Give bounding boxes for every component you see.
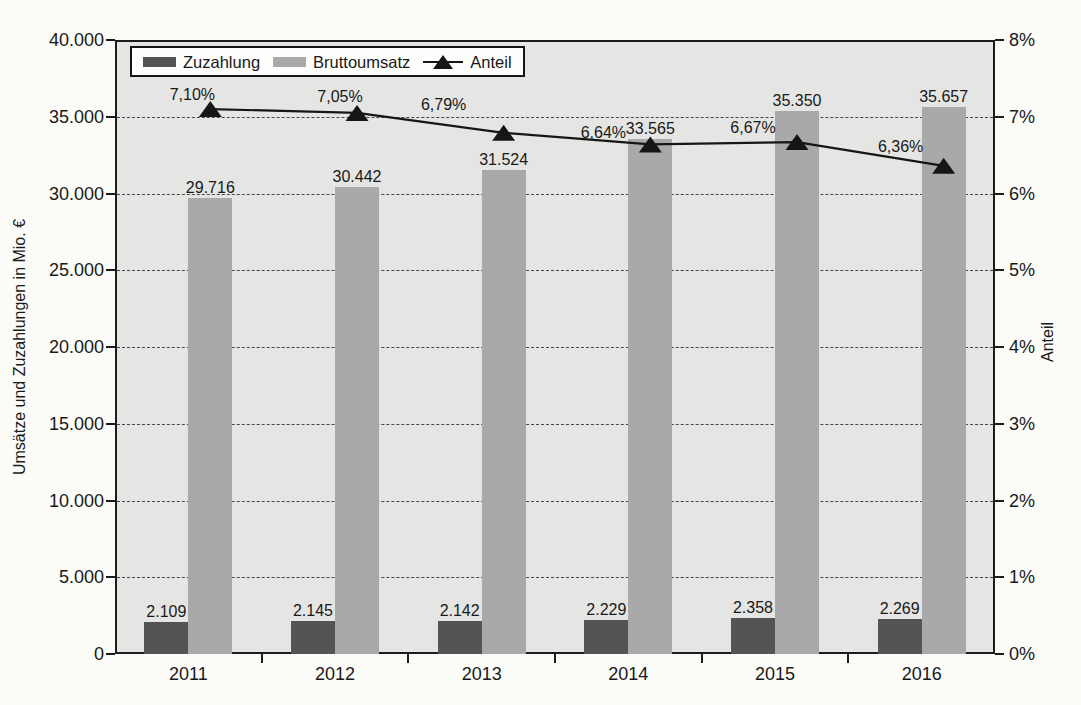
anteil-line-marker-icon [423,54,463,70]
anteil-line-overlay [0,0,1081,705]
legend-label-zuzahlung: Zuzahlung [183,53,260,71]
right-axis-title: Anteil [1038,182,1058,502]
legend-label-anteil: Anteil [470,53,511,71]
legend-item-anteil: Anteil [423,53,511,71]
anteil-marker-icon [932,158,955,174]
left-axis-title: Umsätze und Zuzahlungen in Mio. € [10,187,30,507]
bruttoumsatz-swatch-icon [273,57,306,67]
legend-item-bruttoumsatz: Bruttoumsatz [273,53,410,71]
combo-chart: 05.00010.00015.00020.00025.00030.00035.0… [0,0,1081,705]
anteil-value-label: 6,79% [399,95,489,115]
legend-item-zuzahlung: Zuzahlung [143,53,260,71]
chart-render-layer: 05.00010.00015.00020.00025.00030.00035.0… [0,0,1081,705]
legend-label-bruttoumsatz: Bruttoumsatz [313,53,410,71]
anteil-value-label: 7,10% [147,85,237,105]
anteil-value-label: 6,64% [558,123,648,143]
zuzahlung-swatch-icon [143,57,176,67]
legend-triangle-icon [433,55,453,69]
anteil-value-label: 7,05% [295,87,385,107]
legend: Zuzahlung Bruttoumsatz Anteil [130,46,525,77]
anteil-value-label: 6,67% [708,118,798,138]
anteil-value-label: 6,36% [856,137,946,157]
